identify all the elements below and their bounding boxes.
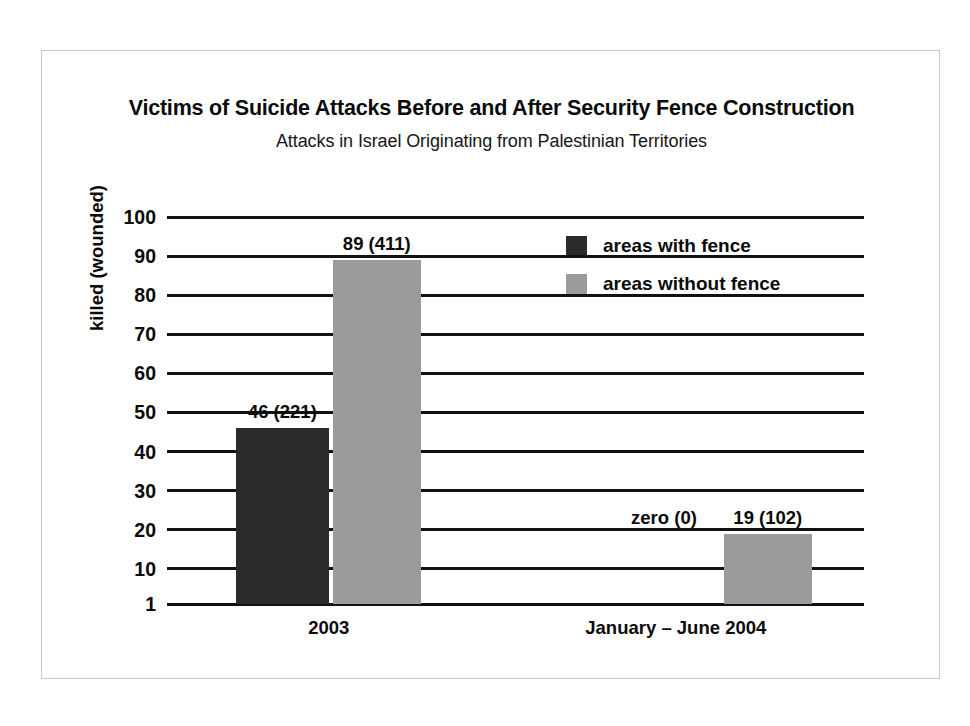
- gridline: [167, 333, 864, 336]
- y-tick-label: 90: [134, 245, 156, 268]
- y-tick-label: 20: [134, 518, 156, 541]
- y-tick-label: 80: [134, 284, 156, 307]
- category-label-2: January – June 2004: [585, 617, 766, 639]
- value-label-bar-2003-without-fence: 89 (411): [343, 233, 411, 255]
- bar-2003-with-fence[interactable]: [236, 428, 329, 604]
- y-axis-title: killed (wounded): [86, 185, 108, 331]
- plot-area: 1009080706050403020101 46 (221)89 (411)z…: [167, 217, 864, 604]
- chart-title: Victims of Suicide Attacks Before and Af…: [42, 96, 941, 121]
- value-label-bar-2004-with-fence: zero (0): [631, 507, 697, 529]
- bar-2003-without-fence[interactable]: [333, 260, 421, 604]
- bar-2004-without-fence[interactable]: [724, 534, 812, 604]
- y-tick-label: 60: [134, 362, 156, 385]
- gridline: [167, 294, 864, 297]
- y-tick-label: 50: [134, 401, 156, 424]
- y-tick-label: 70: [134, 323, 156, 346]
- value-label-bar-2004-without-fence: 19 (102): [733, 507, 802, 529]
- y-tick-label: 10: [134, 557, 156, 580]
- gridline: [167, 216, 864, 219]
- figure-frame: Victims of Suicide Attacks Before and Af…: [41, 50, 940, 679]
- y-tick-label: 1: [145, 593, 156, 616]
- gridline: [167, 255, 864, 258]
- y-tick-label: 40: [134, 440, 156, 463]
- y-tick-label: 100: [123, 206, 156, 229]
- category-label-1: 2003: [308, 617, 349, 639]
- chart-subtitle: Attacks in Israel Originating from Pales…: [42, 131, 941, 152]
- value-label-bar-2003-with-fence: 46 (221): [248, 401, 317, 423]
- gridline: [167, 372, 864, 375]
- y-tick-label: 30: [134, 479, 156, 502]
